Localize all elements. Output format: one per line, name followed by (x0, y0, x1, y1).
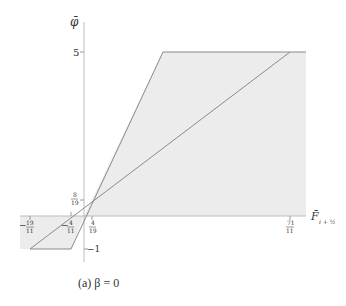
x-tick-label-71-11-num: 71 (287, 219, 295, 226)
x-tick-label-neg19-11-num: 19 (26, 219, 34, 226)
x-tick-label-4-19-den: 19 (89, 227, 97, 234)
y-tick-label-8-19-num: 8 (73, 191, 77, 198)
caption-text: (a) β = 0 (78, 276, 119, 291)
x-tick-label-71-11-den: 11 (286, 227, 294, 234)
x-tick-label-4-19-num: 4 (91, 219, 95, 226)
y-tick-label-8-19-den: 19 (71, 199, 79, 206)
x-axis-label: F̄ (310, 210, 319, 223)
y-tick-label-5: 5 (73, 47, 79, 58)
y-axis-label: φ̄ (70, 15, 79, 29)
x-tick-label-neg4-11-num: 4 (69, 219, 73, 226)
diagram-canvas: φ̄ 5 8 19 −1 − 19 11 − 4 11 4 19 71 11 F… (0, 0, 346, 306)
y-tick-label-neg1: −1 (87, 244, 100, 254)
x-tick-label-neg4-11-den: 11 (67, 227, 75, 234)
upper-admissible-region (84, 52, 306, 216)
x-axis-subscript: i + ½ (319, 218, 336, 225)
x-tick-label-neg19-11-den: 11 (26, 227, 34, 234)
